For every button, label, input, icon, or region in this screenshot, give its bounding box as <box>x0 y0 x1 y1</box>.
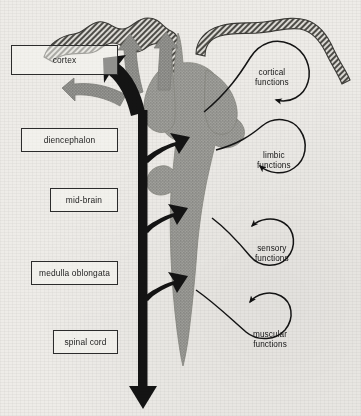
function-label-limbic: limbic functions <box>257 151 291 170</box>
function-label-line1: limbic <box>257 151 291 161</box>
function-label-line1: cortical <box>255 68 289 78</box>
function-label-line2: functions <box>255 78 289 88</box>
function-label-cortical: cortical functions <box>255 68 289 87</box>
structure-label-text: mid-brain <box>66 195 102 205</box>
function-label-muscular: muscular functions <box>253 330 287 349</box>
function-label-line1: muscular <box>253 330 287 340</box>
structure-label-medulla-oblongata[interactable]: medulla oblongata <box>31 261 118 285</box>
structure-label-text: diencephalon <box>44 135 96 145</box>
structure-label-text: medulla oblongata <box>39 268 110 278</box>
structure-label-spinal-cord[interactable]: spinal cord <box>53 330 118 354</box>
function-label-line2: functions <box>257 161 291 171</box>
structure-label-midbrain[interactable]: mid-brain <box>50 188 118 212</box>
function-label-line2: functions <box>255 254 289 264</box>
structure-label-text: cortex <box>53 55 77 65</box>
structure-label-diencephalon[interactable]: diencephalon <box>21 128 118 152</box>
structure-label-text: spinal cord <box>64 337 106 347</box>
function-label-line2: functions <box>253 340 287 350</box>
diagram-canvas: cortex diencephalon mid-brain medulla ob… <box>0 0 361 416</box>
function-label-line1: sensory <box>255 244 289 254</box>
function-label-sensory: sensory functions <box>255 244 289 263</box>
structure-label-cortex[interactable]: cortex <box>11 45 118 75</box>
